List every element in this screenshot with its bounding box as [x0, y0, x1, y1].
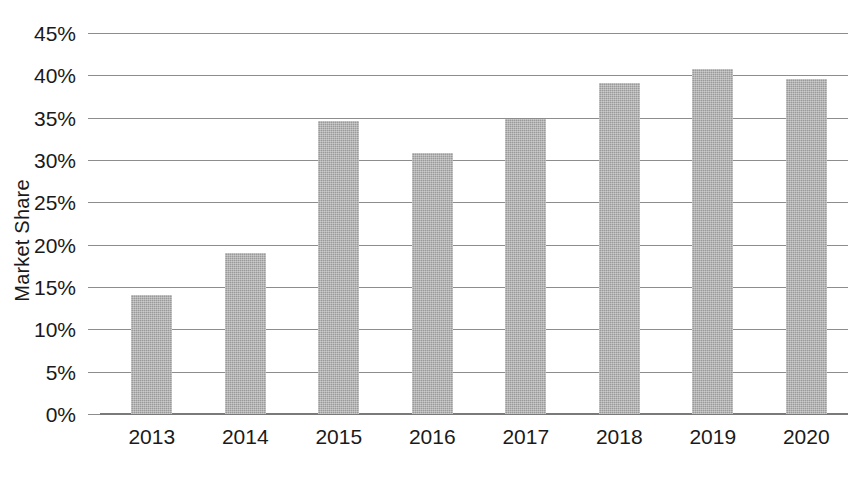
x-axis-tick-label: 2017 [481, 424, 571, 450]
bar[interactable] [318, 121, 359, 414]
y-axis-tick-mark [88, 287, 100, 288]
bar[interactable] [692, 69, 733, 414]
x-axis-tick-label: 2018 [574, 424, 664, 450]
x-axis-tick-label: 2020 [761, 424, 851, 450]
y-axis-tick-mark [88, 202, 100, 203]
bar-chart: Market Share 0%5%10%15%20%25%30%35%40%45… [0, 0, 863, 481]
y-axis-tick-label: 0% [0, 404, 76, 425]
x-axis-tick-label: 2013 [107, 424, 197, 450]
y-axis-tick-mark [88, 75, 100, 76]
x-axis-tick-label: 2016 [387, 424, 477, 450]
bar[interactable] [505, 119, 546, 414]
y-axis-tick-label: 35% [0, 108, 76, 129]
y-axis-tick-mark [88, 118, 100, 119]
bar[interactable] [412, 153, 453, 414]
bar[interactable] [131, 295, 172, 414]
bar[interactable] [599, 83, 640, 414]
y-axis-tick-mark [88, 414, 100, 415]
bar[interactable] [225, 253, 266, 414]
y-axis-tick-label: 25% [0, 192, 76, 213]
y-axis-tick-label: 15% [0, 277, 76, 298]
y-axis-tick-label: 5% [0, 362, 76, 383]
y-axis-tick-label: 30% [0, 150, 76, 171]
y-axis-tick-label: 10% [0, 319, 76, 340]
x-axis-tick-label: 2014 [200, 424, 290, 450]
x-axis-tick-label: 2015 [294, 424, 384, 450]
plot-area: 0%5%10%15%20%25%30%35%40%45% [100, 33, 848, 414]
x-axis-tick-label: 2019 [668, 424, 758, 450]
y-axis-tick-mark [88, 245, 100, 246]
y-axis-tick-mark [88, 33, 100, 34]
y-axis-tick-label: 20% [0, 235, 76, 256]
y-axis-tick-label: 45% [0, 23, 76, 44]
x-axis-tick-labels: 20132014201520162017201820192020 [100, 424, 848, 454]
bar[interactable] [786, 79, 827, 414]
y-axis-tick-mark [88, 160, 100, 161]
y-axis-tick-mark [88, 372, 100, 373]
bars-group [100, 33, 848, 414]
y-axis-tick-label: 40% [0, 65, 76, 86]
y-axis-tick-mark [88, 329, 100, 330]
